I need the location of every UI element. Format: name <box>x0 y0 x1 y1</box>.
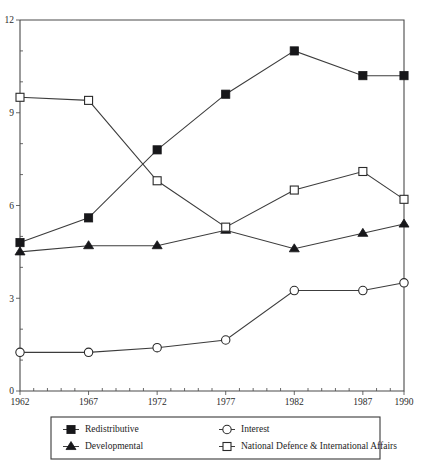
series-developmental <box>15 219 409 255</box>
marker-open-circle <box>359 286 367 294</box>
series-national-defence-international-affairs <box>16 93 408 231</box>
chart-canvas: 036912 1962196719721977198219871990 Redi… <box>0 0 423 462</box>
marker-open-circle <box>400 279 408 287</box>
y-tick-label: 9 <box>9 108 14 118</box>
marker-open-square <box>85 96 93 104</box>
marker-filled-square <box>153 146 161 154</box>
y-tick-label: 12 <box>5 15 15 25</box>
marker-filled-triangle <box>399 219 409 227</box>
legend-label: Developmental <box>85 441 143 451</box>
marker-open-square <box>290 186 298 194</box>
marker-open-circle <box>84 348 92 356</box>
chart-legend: RedistributiveInterestDevelopmentalNatio… <box>51 417 397 459</box>
line-chart: 036912 1962196719721977198219871990 Redi… <box>0 0 423 462</box>
plot-frame <box>20 20 404 391</box>
series-line <box>20 97 404 227</box>
x-tick-label: 1977 <box>216 397 235 407</box>
x-tick-label: 1987 <box>353 397 372 407</box>
marker-filled-square <box>222 90 230 98</box>
legend-label: Redistributive <box>85 424 139 434</box>
x-tick-label: 1962 <box>11 397 30 407</box>
series-interest <box>16 279 408 357</box>
marker-filled-square <box>400 72 408 80</box>
marker-open-square <box>223 443 231 451</box>
legend-entry-interest: Interest <box>219 424 270 434</box>
legend-label: National Defence & International Affairs <box>241 441 397 451</box>
x-tick-label: 1972 <box>148 397 167 407</box>
marker-open-circle <box>16 348 24 356</box>
marker-filled-square <box>16 239 24 247</box>
marker-open-square <box>153 177 161 185</box>
series-line <box>20 224 404 252</box>
marker-filled-square <box>290 47 298 55</box>
y-tick-label: 3 <box>9 294 14 304</box>
marker-open-square <box>222 223 230 231</box>
marker-open-circle <box>290 286 298 294</box>
series-redistributive <box>16 47 408 247</box>
series-line <box>20 283 404 353</box>
marker-open-circle <box>153 344 161 352</box>
marker-filled-square <box>84 214 92 222</box>
marker-filled-square <box>359 72 367 80</box>
marker-open-square <box>400 195 408 203</box>
marker-open-circle <box>222 336 230 344</box>
x-tick-label: 1990 <box>395 397 414 407</box>
marker-open-square <box>16 93 24 101</box>
legend-entry-redistributive: Redistributive <box>63 424 139 434</box>
legend-entry-national-defence-international-affairs: National Defence & International Affairs <box>219 441 397 451</box>
x-tick-label: 1982 <box>285 397 304 407</box>
marker-filled-triangle <box>84 241 94 249</box>
y-tick-label: 0 <box>9 386 14 396</box>
marker-open-square <box>359 167 367 175</box>
series-line <box>20 51 404 243</box>
x-tick-label: 1967 <box>79 397 98 407</box>
legend-label: Interest <box>241 424 270 434</box>
y-tick-label: 6 <box>9 201 14 211</box>
marker-filled-square <box>67 425 75 433</box>
marker-open-circle <box>223 425 231 433</box>
marker-filled-triangle <box>15 247 25 255</box>
series-layer <box>15 47 409 357</box>
